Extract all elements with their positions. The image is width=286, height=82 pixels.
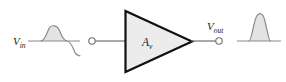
input-terminal-circle[interactable] [89, 38, 95, 44]
output-terminal-circle[interactable] [216, 38, 222, 44]
input-waveform-group [28, 26, 80, 56]
amplifier-symbol[interactable]: Av [126, 11, 193, 72]
output-arch-fill [249, 14, 271, 41]
figure-canvas: Vin Av Vout [0, 0, 286, 82]
input-voltage-label: Vin [13, 35, 26, 50]
output-waveform-group [237, 14, 281, 41]
input-sine-curve-tail [36, 41, 41, 46]
output-voltage-subscript: out [214, 26, 225, 35]
amplifier-figure: Vin Av Vout [0, 0, 286, 82]
input-voltage-subscript: in [20, 41, 26, 50]
output-voltage-label: Vout [207, 20, 224, 35]
amplifier-triangle[interactable] [126, 11, 193, 72]
